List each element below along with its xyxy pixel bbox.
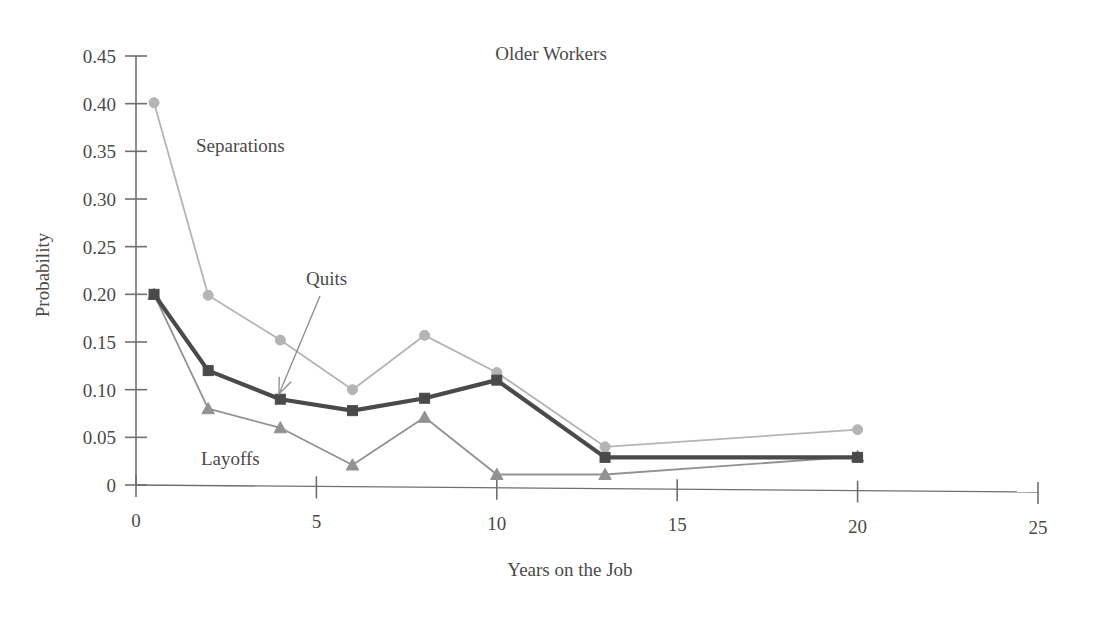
- data-point-marker: [420, 393, 430, 403]
- y-tick-label: 0.10: [83, 380, 116, 401]
- series-label-quits: Quits: [306, 268, 347, 289]
- quits-callout-arrow: [279, 296, 320, 394]
- y-tick-label: 0.35: [83, 141, 116, 162]
- data-point-marker: [418, 411, 430, 422]
- x-tick-label: 15: [668, 514, 687, 535]
- data-point-marker: [203, 290, 213, 300]
- data-point-marker: [492, 375, 502, 385]
- line-chart-svg: Older Workers Probability Years on the J…: [0, 0, 1099, 618]
- y-axis: 00.050.100.150.200.250.300.350.400.45: [83, 46, 147, 496]
- data-point-marker: [600, 452, 610, 462]
- data-point-marker: [203, 366, 213, 376]
- chart-title-group: Older Workers: [495, 43, 607, 64]
- x-tick-label: 5: [312, 511, 322, 532]
- x-axis-title: Years on the Job: [507, 559, 632, 580]
- data-point-marker: [347, 406, 357, 416]
- y-tick-label: 0.30: [83, 189, 116, 210]
- data-point-marker: [853, 452, 863, 462]
- callout-arrow-shaft: [279, 296, 320, 394]
- x-axis: 0510152025: [131, 475, 1047, 538]
- y-tick-label: 0.45: [83, 46, 116, 67]
- data-point-marker: [347, 385, 357, 395]
- page-title: Older Workers: [495, 43, 607, 64]
- y-tick-label: 0.15: [83, 332, 116, 353]
- x-tick-label: 25: [1029, 517, 1048, 538]
- x-axis-line: [136, 485, 1038, 492]
- series-line: [154, 294, 858, 457]
- y-tick-label: 0.40: [83, 94, 116, 115]
- y-tick-label: 0.05: [83, 427, 116, 448]
- data-point-marker: [275, 335, 285, 345]
- data-point-marker: [853, 425, 863, 435]
- y-axis-title: Probability: [32, 232, 53, 317]
- y-axis-title-group: Probability: [32, 232, 53, 317]
- x-tick-label: 20: [848, 516, 867, 537]
- x-tick-label: 10: [487, 513, 506, 534]
- series-label-layoffs: Layoffs: [201, 448, 260, 469]
- data-point-marker: [149, 289, 159, 299]
- x-axis-title-group: Years on the Job: [507, 559, 632, 580]
- y-tick-label: 0: [107, 475, 117, 496]
- y-tick-label: 0.25: [83, 237, 116, 258]
- data-point-marker: [275, 394, 285, 404]
- data-point-marker: [346, 459, 358, 470]
- data-point-marker: [149, 98, 159, 108]
- y-tick-label: 0.20: [83, 284, 116, 305]
- chart-container: Older Workers Probability Years on the J…: [0, 0, 1099, 618]
- x-tick-label: 0: [131, 510, 141, 531]
- data-point-marker: [420, 330, 430, 340]
- series-label-separations: Separations: [196, 135, 285, 156]
- data-point-marker: [600, 442, 610, 452]
- data-point-marker: [202, 403, 214, 414]
